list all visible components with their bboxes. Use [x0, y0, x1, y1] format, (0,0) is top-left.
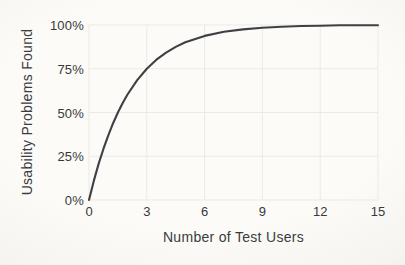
x-tick-label: 15 — [363, 205, 393, 218]
x-tick-label: 0 — [74, 205, 104, 218]
y-tick-label: 50% — [40, 106, 84, 119]
y-axis-label: Usability Problems Found — [19, 12, 35, 212]
y-tick-label: 75% — [40, 62, 84, 75]
x-tick-label: 9 — [247, 205, 277, 218]
y-tick-label: 25% — [40, 150, 84, 163]
x-tick-label: 6 — [190, 205, 220, 218]
x-tick-label: 12 — [305, 205, 335, 218]
plot-area-svg — [0, 0, 405, 265]
x-axis-label: Number of Test Users — [89, 229, 378, 245]
usability-chart: Number of Test Users Usability Problems … — [0, 0, 405, 265]
x-tick-label: 3 — [132, 205, 162, 218]
y-tick-label: 100% — [40, 19, 84, 32]
